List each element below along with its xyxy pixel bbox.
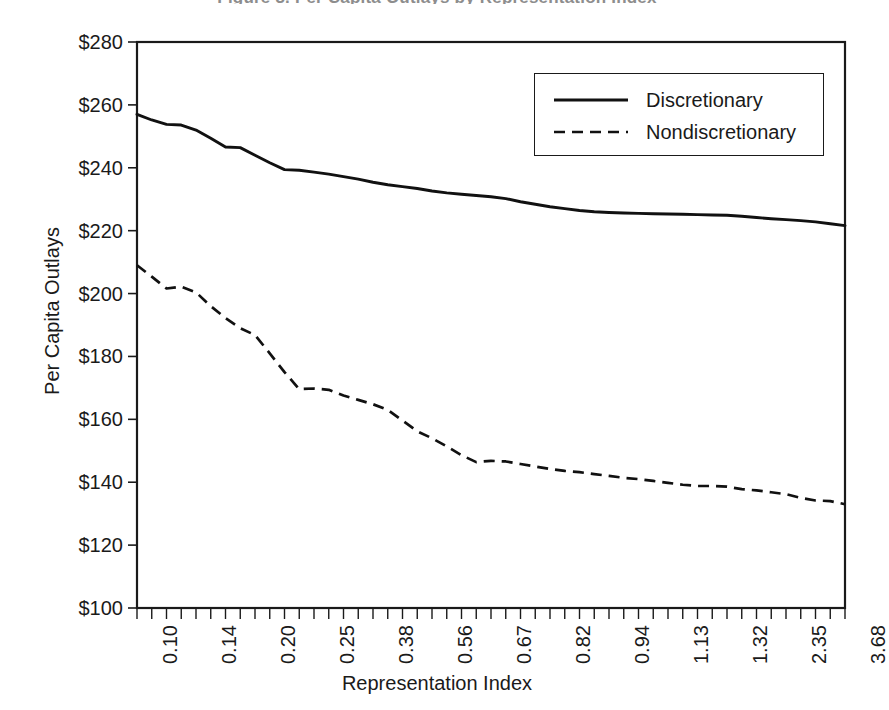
x-tick-label: 0.67	[514, 625, 534, 664]
x-axis-title: Representation Index	[0, 672, 874, 694]
x-tick-label: 1.13	[691, 625, 711, 664]
legend-label-nondiscretionary: Nondiscretionary	[646, 122, 796, 142]
y-tick-label: $120	[31, 535, 123, 555]
x-tick-label: 0.20	[278, 625, 298, 664]
y-tick-label: $260	[31, 95, 123, 115]
y-tick-label: $280	[31, 32, 123, 52]
legend-line-dashed-icon	[554, 124, 628, 140]
y-tick-label: $100	[31, 598, 123, 618]
x-tick-label: 0.82	[573, 625, 593, 664]
y-tick-label: $240	[31, 158, 123, 178]
x-tick-label: 1.32	[750, 625, 770, 664]
x-tick-label: 0.56	[455, 625, 475, 664]
legend-item-nondiscretionary: Nondiscretionary	[535, 117, 825, 147]
x-tick-label: 0.14	[219, 625, 239, 664]
x-tick-label: 0.38	[396, 625, 416, 664]
series-line-nondiscretionary	[137, 265, 845, 504]
y-tick-label: $140	[31, 472, 123, 492]
legend-line-solid-icon	[554, 92, 628, 108]
legend-label-discretionary: Discretionary	[646, 90, 763, 110]
x-tick-label: 2.35	[809, 625, 829, 664]
legend-item-discretionary: Discretionary	[535, 85, 825, 115]
chart-legend: Discretionary Nondiscretionary	[534, 73, 824, 156]
x-tick-label: 0.25	[337, 625, 357, 664]
x-tick-label: 0.94	[632, 625, 652, 664]
x-tick-label: 0.10	[160, 625, 180, 664]
series-group	[137, 114, 845, 504]
x-tick-label: 3.68	[868, 625, 888, 664]
y-axis-title: Per Capita Outlays	[41, 201, 63, 421]
